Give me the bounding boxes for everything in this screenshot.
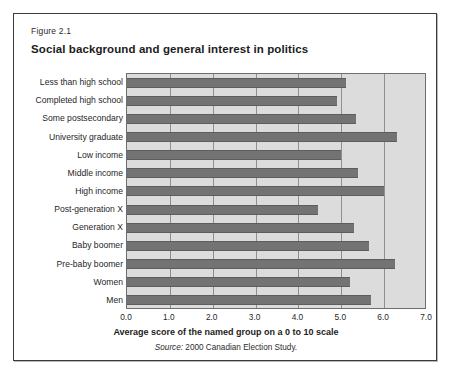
category-label: High income <box>15 186 123 196</box>
bar[interactable] <box>127 295 371 305</box>
x-tick-label: 2.0 <box>192 312 232 322</box>
bar-row <box>127 274 425 292</box>
bar-row <box>127 74 425 92</box>
bar[interactable] <box>127 259 395 269</box>
bar-chart: Less than high schoolCompleted high scho… <box>14 14 438 362</box>
bar-row <box>127 201 425 219</box>
source-note: Source: 2000 Canadian Election Study. <box>14 343 438 352</box>
bar-row <box>127 128 425 146</box>
category-label: Middle income <box>15 168 123 178</box>
bar[interactable] <box>127 168 358 178</box>
category-label: Completed high school <box>15 95 123 105</box>
bar[interactable] <box>127 96 337 106</box>
bar-row <box>127 292 425 309</box>
category-label: Women <box>15 277 123 287</box>
category-label: Post-generation X <box>15 204 123 214</box>
x-tick-label: 0.0 <box>106 312 146 322</box>
x-tick-label: 3.0 <box>235 312 275 322</box>
category-label: Pre-baby boomer <box>15 259 123 269</box>
source-text: 2000 Canadian Election Study. <box>183 343 297 352</box>
category-label: Baby boomer <box>15 240 123 250</box>
bar-row <box>127 92 425 110</box>
category-label: Less than high school <box>15 77 123 87</box>
bar-row <box>127 256 425 274</box>
x-tick-label: 7.0 <box>406 312 446 322</box>
category-label: Some postsecondary <box>15 113 123 123</box>
bar[interactable] <box>127 150 341 160</box>
bar[interactable] <box>127 186 384 196</box>
figure-frame: Figure 2.1 Social background and general… <box>13 13 437 361</box>
plot-area <box>126 73 426 309</box>
bar-row <box>127 110 425 128</box>
bar[interactable] <box>127 241 369 251</box>
category-label: Men <box>15 295 123 305</box>
bar-row <box>127 147 425 165</box>
bar[interactable] <box>127 277 350 287</box>
x-tick-label: 4.0 <box>277 312 317 322</box>
category-label: University graduate <box>15 132 123 142</box>
bar[interactable] <box>127 78 346 88</box>
bar[interactable] <box>127 114 356 124</box>
bar-row <box>127 219 425 237</box>
category-label: Low income <box>15 150 123 160</box>
bar[interactable] <box>127 132 397 142</box>
x-tick-label: 5.0 <box>320 312 360 322</box>
bar-row <box>127 183 425 201</box>
bar[interactable] <box>127 205 318 215</box>
bar-row <box>127 165 425 183</box>
x-tick-label: 1.0 <box>149 312 189 322</box>
x-tick-label: 6.0 <box>363 312 403 322</box>
x-axis-title: Average score of the named group on a 0 … <box>14 327 438 337</box>
bar-row <box>127 237 425 255</box>
bar[interactable] <box>127 223 354 233</box>
source-label: Source: <box>155 343 183 352</box>
category-label: Generation X <box>15 222 123 232</box>
